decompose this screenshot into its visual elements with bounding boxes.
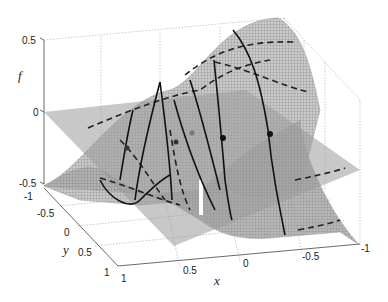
svg-text:-1: -1 <box>24 191 33 202</box>
svg-text:1: 1 <box>104 267 110 278</box>
svg-text:0: 0 <box>243 258 249 269</box>
svg-text:-0.5: -0.5 <box>302 251 320 262</box>
svg-text:-0.5: -0.5 <box>37 208 55 219</box>
x-axis-label: x <box>213 273 220 288</box>
svg-text:-0.5: -0.5 <box>19 178 37 189</box>
z-axis <box>40 38 44 184</box>
surface-figure: 0.5 0 -0.5 f -1 -0.5 0 0.5 1 y 1 0.5 0 -… <box>0 0 388 302</box>
svg-text:0: 0 <box>33 107 39 118</box>
z-axis-label: f <box>18 68 24 83</box>
svg-text:1: 1 <box>121 273 127 284</box>
y-axis-label: y <box>61 242 69 257</box>
svg-text:0.5: 0.5 <box>22 35 36 46</box>
x-tick-labels: 1 0.5 0 -0.5 -1 <box>121 243 370 284</box>
svg-text:0.5: 0.5 <box>183 265 197 276</box>
svg-text:0.5: 0.5 <box>78 247 92 258</box>
y-tick-labels: -1 -0.5 0 0.5 1 <box>24 191 110 278</box>
plot-canvas: 0.5 0 -0.5 f -1 -0.5 0 0.5 1 y 1 0.5 0 -… <box>0 0 388 302</box>
svg-text:-1: -1 <box>361 243 370 254</box>
surface-gap <box>199 180 203 215</box>
x-axis <box>118 244 360 266</box>
z-tick-labels: 0.5 0 -0.5 <box>19 35 39 189</box>
svg-text:0: 0 <box>64 227 70 238</box>
